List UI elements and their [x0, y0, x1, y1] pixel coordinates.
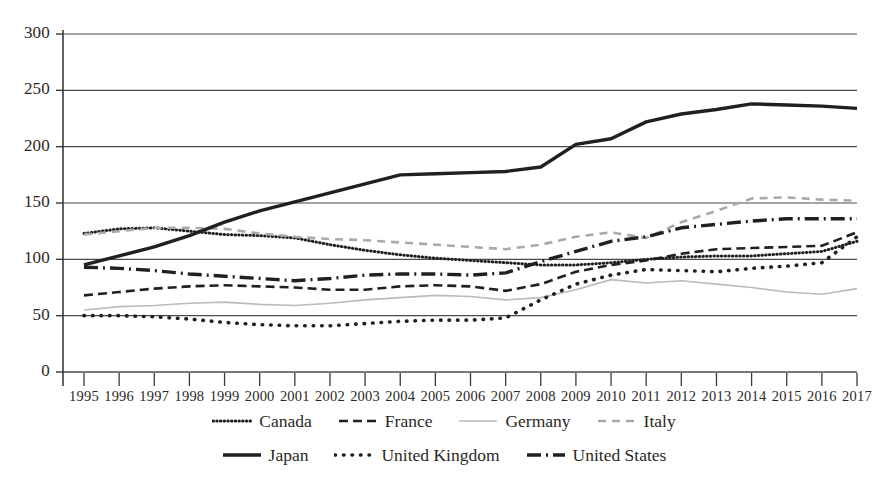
x-axis-label-2013: 2013 [696, 388, 736, 405]
legend-swatch-dash-dot-bold-icon [526, 448, 566, 462]
legend-swatch-fine-dotted-icon [212, 414, 252, 428]
x-axis-label-2014: 2014 [732, 388, 772, 405]
legend-label: Germany [505, 411, 570, 432]
chart-legend: CanadaFranceGermanyItalyJapanUnited King… [0, 404, 888, 472]
x-axis-label-1995: 1995 [64, 388, 104, 405]
legend-swatch-dashed-light-icon [597, 414, 637, 428]
x-axis-label-1998: 1998 [169, 388, 209, 405]
legend-item-japan[interactable]: Japan [222, 445, 309, 466]
legend-item-united-kingdom[interactable]: United Kingdom [334, 445, 499, 466]
y-axis-label-50: 50 [0, 305, 50, 325]
legend-item-united-states[interactable]: United States [526, 445, 667, 466]
series-line-germany [84, 280, 857, 310]
legend-label: Japan [269, 445, 309, 466]
x-axis-label-2012: 2012 [661, 388, 701, 405]
legend-item-france[interactable]: France [338, 411, 433, 432]
legend-item-italy[interactable]: Italy [597, 411, 676, 432]
y-axis-label-200: 200 [0, 136, 50, 156]
x-axis-label-2006: 2006 [451, 388, 491, 405]
y-axis-label-250: 250 [0, 79, 50, 99]
x-axis-label-2004: 2004 [380, 388, 420, 405]
x-axis-label-2000: 2000 [240, 388, 280, 405]
series-line-united-kingdom [84, 237, 857, 326]
legend-swatch-dashed-bold-icon [338, 414, 378, 428]
line-chart: 050100150200250300 199519961997199819992… [0, 0, 888, 496]
x-axis-label-1999: 1999 [205, 388, 245, 405]
x-axis-label-2009: 2009 [556, 388, 596, 405]
legend-item-canada[interactable]: Canada [212, 411, 311, 432]
legend-swatch-thick-solid-icon [222, 448, 262, 462]
x-axis-label-2015: 2015 [767, 388, 807, 405]
y-axis-label-150: 150 [0, 192, 50, 212]
x-axis-label-1996: 1996 [99, 388, 139, 405]
y-axis-label-0: 0 [0, 361, 50, 381]
legend-item-germany[interactable]: Germany [458, 411, 570, 432]
x-axis-label-1997: 1997 [134, 388, 174, 405]
data-series [84, 104, 857, 326]
x-axis-label-2011: 2011 [626, 388, 666, 405]
series-line-japan [84, 104, 857, 265]
legend-label: Canada [259, 411, 311, 432]
legend-row-2: JapanUnited KingdomUnited States [0, 438, 888, 472]
x-axis-label-2010: 2010 [591, 388, 631, 405]
x-axis-label-2001: 2001 [275, 388, 315, 405]
x-axis-label-2003: 2003 [345, 388, 385, 405]
legend-swatch-thin-solid-light-icon [458, 414, 498, 428]
legend-label: United States [573, 445, 667, 466]
series-line-italy [84, 197, 857, 249]
y-axis-label-300: 300 [0, 23, 50, 43]
legend-label: United Kingdom [381, 445, 499, 466]
legend-swatch-round-dotted-icon [334, 448, 374, 462]
x-axis-label-2016: 2016 [802, 388, 842, 405]
legend-row-1: CanadaFranceGermanyItaly [0, 404, 888, 438]
x-axis-label-2002: 2002 [310, 388, 350, 405]
x-axis-label-2017: 2017 [837, 388, 877, 405]
legend-label: France [385, 411, 433, 432]
x-axis-label-2008: 2008 [521, 388, 561, 405]
axis-ticks [56, 34, 857, 386]
x-axis-label-2005: 2005 [415, 388, 455, 405]
legend-label: Italy [644, 411, 676, 432]
y-axis-label-100: 100 [0, 248, 50, 268]
x-axis-label-2007: 2007 [486, 388, 526, 405]
